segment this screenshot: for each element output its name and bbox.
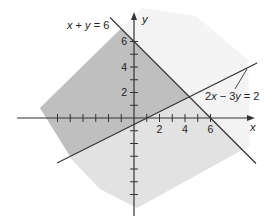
equation-label: x + y = 6 xyxy=(66,19,109,31)
x-tick-label: 4 xyxy=(182,123,188,135)
graph-figure: 246246xyx + y = 62x − 3y = 2 xyxy=(0,0,274,223)
x-tick-label: 2 xyxy=(157,123,163,135)
x-axis-label: x xyxy=(249,121,257,133)
y-tick-label: 6 xyxy=(121,35,127,47)
x-tick-label: 6 xyxy=(208,123,214,135)
y-tick-label: 4 xyxy=(121,61,127,73)
y-tick-label: 2 xyxy=(121,86,127,98)
equation-label: 2x − 3y = 2 xyxy=(205,90,259,102)
inequality-graph: 246246xyx + y = 62x − 3y = 2 xyxy=(0,0,274,223)
